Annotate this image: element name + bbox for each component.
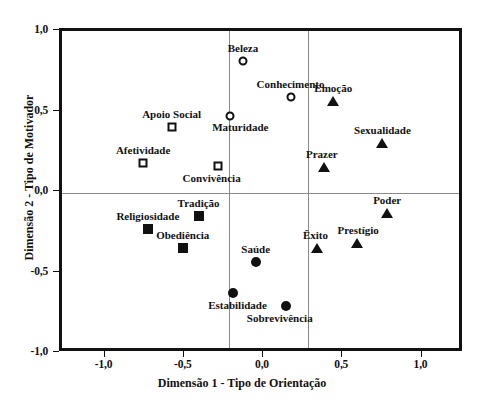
data-point-marker[interactable] (311, 243, 323, 253)
data-point-marker[interactable] (327, 96, 339, 106)
y-tick-0 (53, 351, 59, 352)
data-point-label: Êxito (303, 229, 328, 241)
y-tick-1 (53, 271, 59, 272)
data-point-marker[interactable] (281, 301, 291, 311)
x-tick-1 (183, 351, 184, 357)
data-point-marker[interactable] (251, 257, 261, 267)
data-point-label: Apoio Social (142, 108, 201, 120)
data-point-marker[interactable] (376, 138, 388, 148)
data-point-label: Emoção (314, 82, 352, 94)
data-point-label: Sexualidade (354, 124, 411, 136)
x-tick-label-1: -0,5 (174, 358, 191, 370)
data-point-label: Tradição (178, 197, 220, 209)
data-point-label: Saúde (241, 243, 270, 255)
x-tick-label-4: 1,0 (414, 358, 428, 370)
y-axis-title: Dimensão 2 - Tipo de Motivador (22, 63, 37, 293)
data-point-marker[interactable] (194, 211, 204, 221)
data-point-marker[interactable] (226, 111, 235, 120)
data-point-marker[interactable] (286, 92, 295, 101)
x-tick-3 (341, 351, 342, 357)
data-point-marker[interactable] (167, 123, 176, 132)
scatter-plot-figure: -1,0-0,50,00,51,0-1,0-0,50,00,51,0Beleza… (0, 0, 484, 407)
x-tick-label-3: 0,5 (334, 358, 348, 370)
x-tick-4 (421, 351, 422, 357)
data-point-marker[interactable] (381, 208, 393, 218)
y-tick-label-4: 1,0 (34, 23, 48, 35)
data-point-label: Prazer (306, 148, 338, 160)
data-point-label: Obediência (156, 229, 209, 241)
y-tick-4 (53, 29, 59, 30)
x-axis-title: Dimensão 1 - Tipo de Orientação (0, 376, 484, 391)
data-point-label: Poder (373, 194, 401, 206)
y-tick-label-0: -1,0 (31, 345, 48, 357)
data-point-label: Prestígio (337, 224, 378, 236)
data-point-marker[interactable] (143, 224, 153, 234)
data-point-label: Religiosidade (116, 210, 179, 222)
x-tick-2 (262, 351, 263, 357)
data-point-marker[interactable] (318, 162, 330, 172)
data-point-marker[interactable] (178, 243, 188, 253)
data-point-label: Convivência (183, 172, 241, 184)
x-tick-label-0: -1,0 (95, 358, 112, 370)
data-point-label: Estabilidade (208, 299, 267, 311)
data-point-label: Beleza (228, 42, 259, 54)
data-point-label: Afetividade (116, 144, 170, 156)
y-tick-3 (53, 110, 59, 111)
x-tick-0 (104, 351, 105, 357)
data-point-marker[interactable] (213, 161, 222, 170)
data-point-label: Sobrevivência (247, 312, 313, 324)
data-point-marker[interactable] (238, 57, 247, 66)
x-tick-label-2: 0,0 (255, 358, 269, 370)
data-point-marker[interactable] (228, 288, 238, 298)
y-tick-2 (53, 190, 59, 191)
data-point-marker[interactable] (139, 158, 148, 167)
data-point-marker[interactable] (351, 238, 363, 248)
data-point-label: Maturidade (212, 121, 268, 133)
